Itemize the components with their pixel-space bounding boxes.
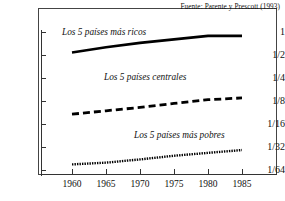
chart-figure: Fuente: Parente y Prescott (1993) 11/21/… <box>0 0 285 201</box>
series-line-middle <box>72 98 242 114</box>
series-label-middle: Los 5 países centrales <box>104 72 186 82</box>
series-label-rich: Los 5 países más ricos <box>62 27 146 37</box>
series-line-rich <box>72 36 242 53</box>
series-label-poor: Los 5 países más pobres <box>134 130 225 140</box>
series-line-poor <box>72 150 242 164</box>
